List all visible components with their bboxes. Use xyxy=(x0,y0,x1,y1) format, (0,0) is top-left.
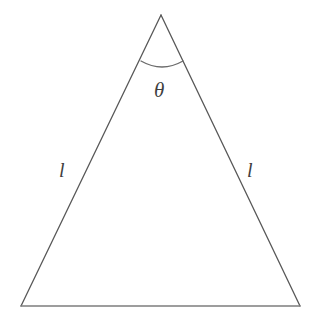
triangle-left-leg xyxy=(21,15,161,306)
triangle-diagram-svg xyxy=(0,0,316,328)
geometry-figure-canvas: θ l l xyxy=(0,0,316,328)
triangle-right-leg xyxy=(161,15,300,306)
apex-angle-arc-icon xyxy=(141,61,183,67)
apex-angle-label: θ xyxy=(154,80,164,101)
left-leg-length-label: l xyxy=(59,160,65,180)
right-leg-length-label: l xyxy=(247,160,253,180)
